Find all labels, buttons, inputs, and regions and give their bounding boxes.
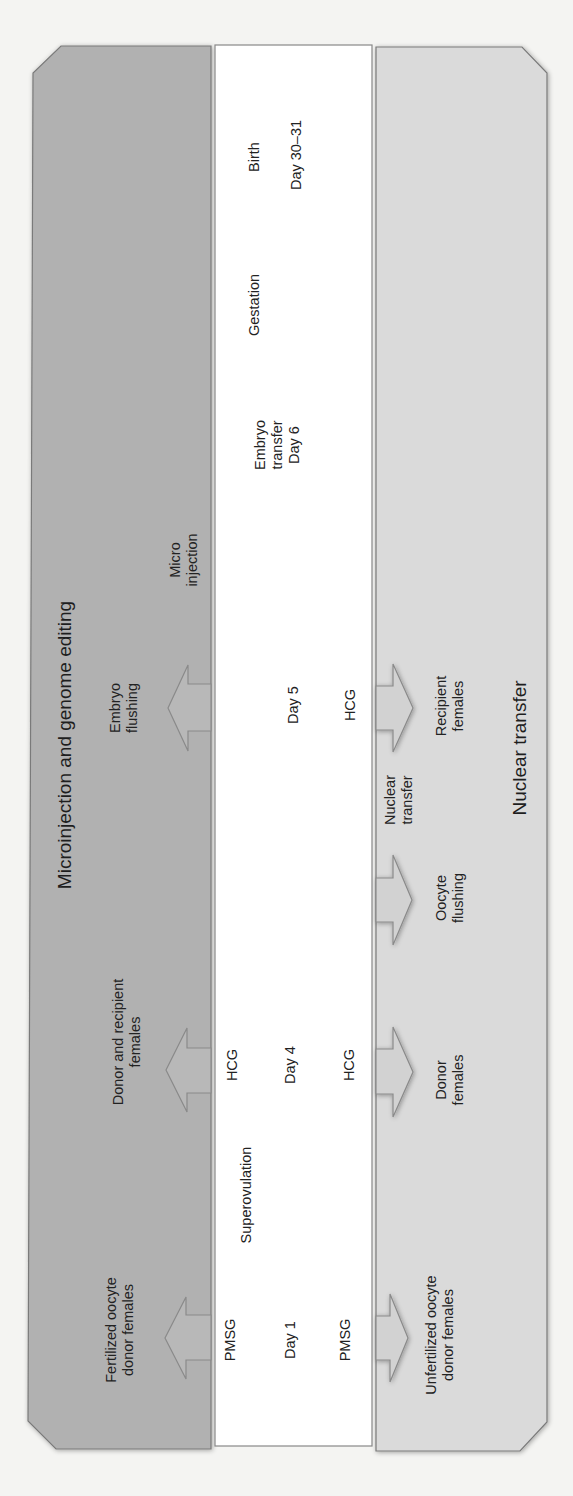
label-birth: Birth (246, 142, 263, 172)
label-day5: Day 5 (285, 686, 302, 724)
label-superovulation: Superovulation (238, 1147, 255, 1244)
label-microinjection: Micro injection (167, 533, 201, 586)
label-hcg-day5: HCG (342, 689, 359, 721)
label-unfertilized-oocyte-donors: Unfertilized oocyte donor females (423, 1275, 457, 1394)
label-embryo-transfer-day6: Embryo transfer Day 6 (252, 420, 303, 470)
label-gestation: Gestation (246, 274, 263, 336)
label-fertilized-oocyte-donors: Fertilized oocyte donor females (103, 1277, 137, 1383)
label-oocyte-flushing: Oocyte flushing (433, 873, 467, 923)
label-recipient-females: Recipient females (433, 676, 467, 736)
label-nuclear-transfer-step: Nuclear transfer (382, 775, 416, 825)
label-hcg-day4-left: HCG (224, 1049, 241, 1081)
left-panel-title: Microinjection and genome editing (54, 601, 76, 889)
label-day4: Day 4 (282, 1046, 299, 1084)
label-donor-females: Donor females (433, 1055, 467, 1106)
diagram-panels (0, 0, 573, 1496)
label-pmsg-right: PMSG (337, 1319, 354, 1362)
label-embryo-flushing: Embryo flushing (107, 683, 141, 733)
label-pmsg-left: PMSG (222, 1319, 239, 1362)
protocol-timeline-diagram: Microinjection and genome editing Embryo… (0, 0, 573, 1496)
label-donor-recipient-females: Donor and recipient females (110, 979, 144, 1106)
label-day-30-31: Day 30–31 (288, 120, 305, 190)
right-panel-title: Nuclear transfer (509, 680, 531, 815)
label-day1: Day 1 (282, 1321, 299, 1359)
label-hcg-day4-right: HCG (341, 1049, 358, 1081)
